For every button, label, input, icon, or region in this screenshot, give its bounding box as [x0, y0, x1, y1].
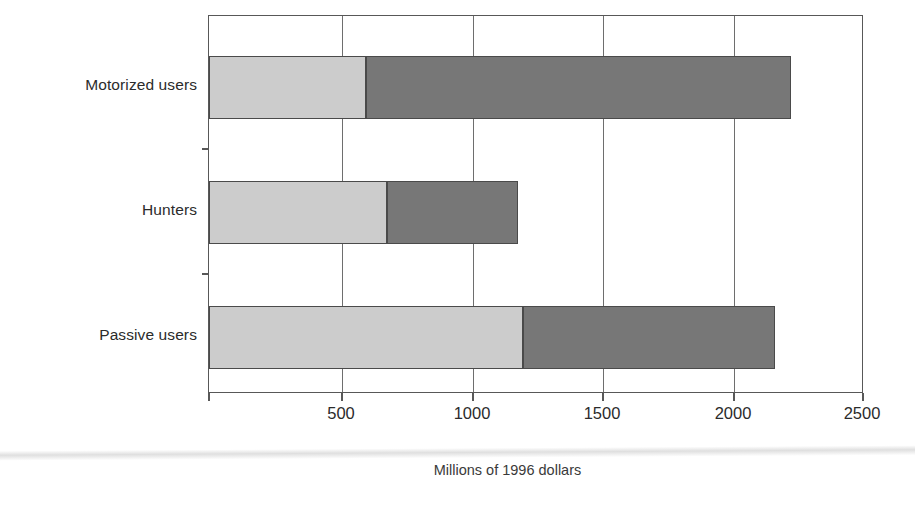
y-axis-tick-2 [202, 273, 209, 275]
y-axis-tick-1 [202, 148, 209, 150]
y-axis-labels: Motorized users Hunters Passive users [0, 0, 197, 520]
x-axis-tick-2500 [862, 393, 864, 401]
y-axis-label-motorized-users: Motorized users [7, 76, 197, 94]
x-axis-tick-1000 [472, 393, 474, 401]
x-axis-tick-500 [341, 393, 343, 401]
bar-segment-light-hunters[interactable] [209, 181, 387, 244]
bar-passive-users[interactable] [209, 306, 775, 369]
x-axis-label-1000: 1000 [432, 404, 512, 423]
x-axis-label-2500: 2500 [822, 404, 902, 423]
bar-segment-dark-passive-users[interactable] [523, 306, 775, 369]
x-axis-title: Millions of 1996 dollars [0, 462, 915, 478]
bar-segment-light-passive-users[interactable] [209, 306, 523, 369]
y-axis-label-hunters: Hunters [7, 201, 197, 219]
x-axis-label-500: 500 [301, 404, 381, 423]
bar-segment-dark-hunters[interactable] [387, 181, 518, 244]
bar-segment-light-motorized-users[interactable] [209, 56, 366, 119]
chart-figure: Motorized users Hunters Passive users [0, 0, 915, 520]
y-axis-label-passive-users: Passive users [7, 326, 197, 344]
x-axis-tick-2000 [733, 393, 735, 401]
x-axis-tick-1500 [602, 393, 604, 401]
bar-motorized-users[interactable] [209, 56, 791, 119]
plot-area [208, 15, 863, 393]
x-axis-tick-0 [208, 393, 210, 401]
bar-segment-dark-motorized-users[interactable] [366, 56, 791, 119]
x-axis-label-1500: 1500 [562, 404, 642, 423]
bar-hunters[interactable] [209, 181, 518, 244]
x-axis-label-2000: 2000 [693, 404, 773, 423]
